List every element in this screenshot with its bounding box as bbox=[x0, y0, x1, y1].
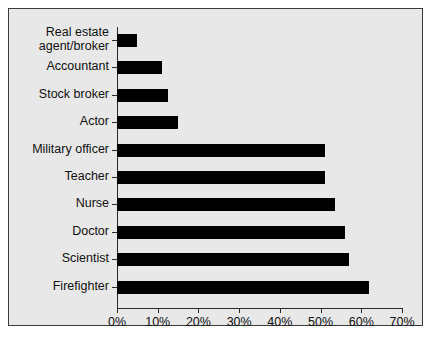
bar bbox=[117, 116, 178, 129]
category-label: Accountant bbox=[46, 60, 109, 73]
bar-row: Doctor bbox=[117, 219, 402, 246]
x-axis-line bbox=[117, 308, 403, 309]
category-label: Doctor bbox=[72, 225, 109, 238]
x-axis-tick-label: 60% bbox=[349, 315, 374, 329]
bar-row: Accountant bbox=[117, 54, 402, 81]
x-axis-tick bbox=[361, 308, 362, 313]
x-axis-tick-label: 10% bbox=[145, 315, 170, 329]
x-axis-tick-label: 40% bbox=[267, 315, 292, 329]
bar-row: Firefighter bbox=[117, 274, 402, 301]
category-label: Military officer bbox=[32, 143, 109, 156]
bar bbox=[117, 34, 137, 47]
x-axis-tick-label: 50% bbox=[308, 315, 333, 329]
x-axis-tick-label: 70% bbox=[389, 315, 414, 329]
category-label: Stock broker bbox=[39, 88, 109, 101]
bar bbox=[117, 89, 168, 102]
bar-row: Scientist bbox=[117, 246, 402, 273]
bar bbox=[117, 253, 349, 266]
x-axis-tick bbox=[158, 308, 159, 313]
x-axis-tick-label: 30% bbox=[227, 315, 252, 329]
category-label: Real estateagent/broker bbox=[39, 26, 109, 53]
category-label: Scientist bbox=[62, 252, 109, 265]
bar bbox=[117, 281, 369, 294]
category-label: Teacher bbox=[65, 170, 109, 183]
chart-figure: Real estateagent/brokerAccountantStock b… bbox=[0, 0, 433, 340]
bar-row: Nurse bbox=[117, 191, 402, 218]
bar bbox=[117, 226, 345, 239]
x-axis-tick bbox=[280, 308, 281, 313]
x-axis-tick bbox=[321, 308, 322, 313]
bar bbox=[117, 198, 335, 211]
bar-row: Stock broker bbox=[117, 82, 402, 109]
x-axis-tick bbox=[117, 308, 118, 313]
plot-area: Real estateagent/brokerAccountantStock b… bbox=[117, 27, 402, 302]
category-label: Firefighter bbox=[53, 280, 109, 293]
x-axis-tick bbox=[198, 308, 199, 313]
bar bbox=[117, 171, 325, 184]
bar-row: Actor bbox=[117, 109, 402, 136]
x-axis-tick bbox=[402, 308, 403, 313]
bar bbox=[117, 144, 325, 157]
x-axis-tick-label: 0% bbox=[108, 315, 126, 329]
category-label: Actor bbox=[80, 115, 109, 128]
bar-row: Teacher bbox=[117, 164, 402, 191]
x-axis-tick-label: 20% bbox=[186, 315, 211, 329]
bar-row: Real estateagent/broker bbox=[117, 27, 402, 54]
bar-row: Military officer bbox=[117, 137, 402, 164]
category-label: Nurse bbox=[76, 197, 109, 210]
bar bbox=[117, 61, 162, 74]
chart-panel: Real estateagent/brokerAccountantStock b… bbox=[8, 8, 423, 326]
x-axis-tick bbox=[239, 308, 240, 313]
